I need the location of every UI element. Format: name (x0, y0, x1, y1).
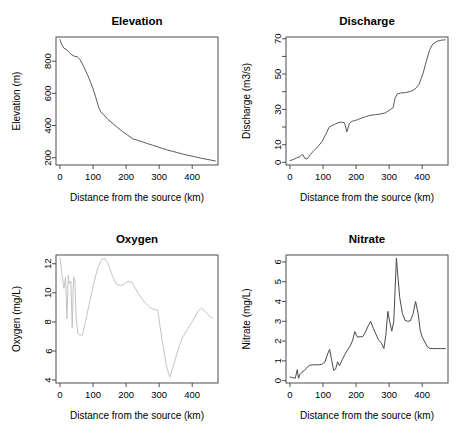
y-tick-label: 200 (43, 150, 54, 166)
y-axis-title: Discharge (m3/s) (241, 63, 252, 139)
x-tick-label: 0 (57, 389, 62, 400)
y-tick-label: 6 (43, 348, 54, 353)
panel-elevation: 0100200300400200400600800ElevationDistan… (0, 0, 230, 218)
x-tick-label: 0 (287, 389, 292, 400)
x-axis-title: Distance from the source (km) (70, 410, 204, 421)
y-tick-label: 4 (43, 377, 54, 382)
y-tick-label: 1 (273, 358, 284, 363)
y-axis: 4681012 (43, 258, 57, 382)
x-axis-title: Distance from the source (km) (70, 192, 204, 203)
y-tick-label: 10 (43, 288, 54, 299)
panel-title: Elevation (111, 15, 162, 27)
series-line-discharge (290, 40, 445, 161)
y-tick-label: 4 (273, 299, 284, 304)
plot-box (286, 255, 448, 383)
y-tick-label: 2 (273, 338, 284, 343)
x-tick-label: 400 (414, 389, 430, 400)
y-tick-label: 10 (273, 139, 284, 150)
chart-elevation[interactable]: 0100200300400200400600800ElevationDistan… (0, 0, 230, 218)
x-tick-label: 400 (184, 171, 200, 182)
y-tick-label: 3 (273, 319, 284, 324)
panel-title: Discharge (339, 15, 395, 27)
x-tick-label: 300 (151, 389, 167, 400)
y-axis-title: Oxygen (mg/L) (11, 286, 22, 352)
x-tick-label: 300 (151, 171, 167, 182)
x-tick-label: 200 (348, 389, 364, 400)
plot-box (286, 37, 448, 165)
x-tick-label: 100 (315, 389, 331, 400)
y-axis-title: Nitrate (mg/L) (241, 288, 252, 349)
x-tick-label: 300 (381, 389, 397, 400)
panel-title: Oxygen (116, 233, 158, 245)
x-tick-label: 0 (287, 171, 292, 182)
x-tick-label: 400 (414, 171, 430, 182)
x-tick-label: 100 (85, 389, 101, 400)
x-axis: 0100200300400 (287, 165, 430, 182)
y-tick-label: 6 (273, 259, 284, 264)
y-tick-label: 70 (273, 33, 284, 44)
y-tick-label: 0 (273, 160, 284, 165)
y-axis: 010305070 (273, 33, 287, 165)
y-tick-label: 600 (43, 85, 54, 101)
x-tick-label: 100 (85, 171, 101, 182)
panel-oxygen: 01002003004004681012OxygenDistance from … (0, 218, 230, 436)
x-tick-label: 200 (118, 389, 134, 400)
series-line-oxygen (60, 258, 213, 377)
chart-nitrate[interactable]: 01002003004000123456NitrateDistance from… (230, 218, 460, 436)
x-axis-title: Distance from the source (km) (300, 410, 434, 421)
panel-nitrate: 01002003004000123456NitrateDistance from… (230, 218, 460, 436)
x-tick-label: 200 (118, 171, 134, 182)
x-axis: 0100200300400 (57, 383, 200, 400)
x-axis: 0100200300400 (57, 165, 200, 182)
y-tick-label: 12 (43, 258, 54, 269)
x-tick-label: 0 (57, 171, 62, 182)
x-axis: 0100200300400 (287, 383, 430, 400)
panel-discharge: 0100200300400010305070DischargeDistance … (230, 0, 460, 218)
x-tick-label: 200 (348, 171, 364, 182)
footer-artifact (0, 434, 460, 440)
y-axis-title: Elevation (m) (11, 72, 22, 131)
x-axis-title: Distance from the source (km) (300, 192, 434, 203)
y-tick-label: 400 (43, 118, 54, 134)
y-tick-label: 800 (43, 53, 54, 69)
y-tick-label: 8 (43, 319, 54, 324)
y-tick-label: 50 (273, 69, 284, 80)
x-tick-label: 100 (315, 171, 331, 182)
y-axis: 0123456 (273, 259, 287, 383)
y-axis: 200400600800 (43, 53, 57, 165)
x-tick-label: 300 (381, 171, 397, 182)
y-tick-label: 5 (273, 279, 284, 284)
figure-root: 0100200300400200400600800ElevationDistan… (0, 0, 460, 440)
series-line-nitrate (290, 258, 445, 378)
panel-grid: 0100200300400200400600800ElevationDistan… (0, 0, 460, 436)
y-tick-label: 30 (273, 104, 284, 115)
chart-discharge[interactable]: 0100200300400010305070DischargeDistance … (230, 0, 460, 218)
x-tick-label: 400 (184, 389, 200, 400)
y-tick-label: 0 (273, 378, 284, 383)
panel-title: Nitrate (349, 233, 385, 245)
series-line-elevation (60, 40, 215, 161)
chart-oxygen[interactable]: 01002003004004681012OxygenDistance from … (0, 218, 230, 436)
plot-box (56, 37, 218, 165)
